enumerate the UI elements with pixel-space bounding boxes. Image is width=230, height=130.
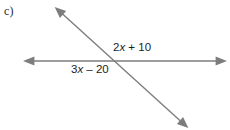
upper-variable: x bbox=[119, 41, 125, 53]
upper-operator: + bbox=[128, 41, 135, 53]
geometry-figure: c) 2x + 10 3x – 20 bbox=[0, 0, 230, 130]
angle-label-upper-right: 2x + 10 bbox=[113, 41, 151, 54]
lower-operator: – bbox=[86, 63, 92, 75]
lower-variable: x bbox=[77, 63, 83, 75]
angle-label-lower-left: 3x – 20 bbox=[71, 63, 109, 76]
lower-constant: 20 bbox=[96, 63, 109, 75]
upper-constant: 10 bbox=[138, 41, 151, 53]
geometry-canvas bbox=[0, 0, 230, 130]
